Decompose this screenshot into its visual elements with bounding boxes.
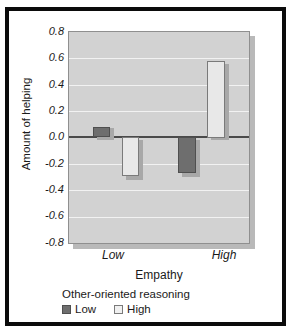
legend-item-low[interactable]: Low	[62, 303, 96, 315]
x-axis-title: Empathy	[68, 268, 250, 282]
bar-low-empathy-low-reasoning[interactable]	[93, 127, 110, 137]
legend-swatch-high-icon	[114, 305, 123, 314]
y-tick-label: 0.4	[26, 79, 64, 90]
legend-items: Low High	[62, 303, 190, 315]
y-tick-label: -0.6	[26, 210, 64, 221]
y-axis-tick-labels: 0.8 0.6 0.4 0.2 0.0 -0.2 -0.4 -0.6 -0.8	[22, 0, 64, 336]
y-tick-label: 0.6	[26, 52, 64, 63]
plot-area	[68, 31, 250, 244]
bar-high-empathy-high-reasoning[interactable]	[207, 61, 225, 138]
bar-low-empathy-high-reasoning[interactable]	[122, 137, 139, 176]
y-tick-label: -0.8	[26, 237, 64, 248]
legend-swatch-low-icon	[62, 305, 71, 314]
legend-label-low: Low	[75, 303, 96, 315]
x-tick-label-high: High	[184, 248, 264, 262]
gridline	[69, 190, 249, 191]
legend: Other-oriented reasoning Low High	[62, 288, 190, 315]
y-tick-label: -0.4	[26, 184, 64, 195]
gridline	[69, 164, 249, 165]
y-tick-label: -0.2	[26, 158, 64, 169]
bar-high-empathy-low-reasoning[interactable]	[178, 137, 196, 173]
legend-item-high[interactable]: High	[114, 303, 151, 315]
y-tick-label: 0.0	[26, 131, 64, 142]
x-tick-label-low: Low	[73, 248, 153, 262]
figure-root: Amount of helping 0.8 0.6 0.4 0.2 0.0 -0…	[0, 0, 295, 336]
y-tick-label: 0.8	[26, 26, 64, 37]
legend-label-high: High	[127, 303, 151, 315]
legend-title: Other-oriented reasoning	[62, 288, 190, 300]
gridline	[69, 217, 249, 218]
y-tick-label: 0.2	[26, 105, 64, 116]
gridline	[69, 243, 249, 244]
gridline	[69, 58, 249, 59]
